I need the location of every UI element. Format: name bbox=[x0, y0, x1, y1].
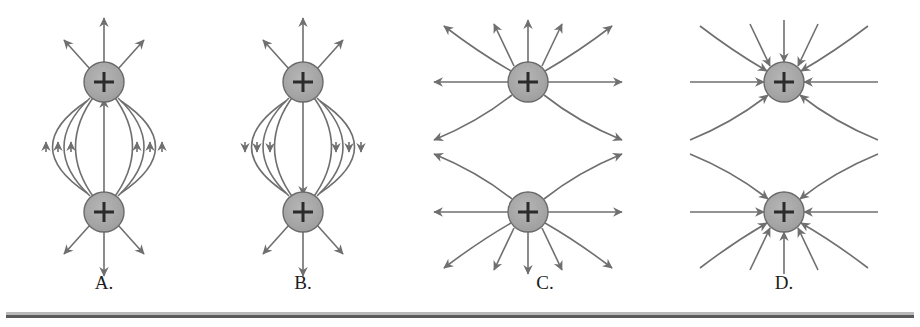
panel-b-lower-charge bbox=[283, 192, 323, 232]
panel-a-lower-charge bbox=[84, 192, 124, 232]
panel-d-field-lines bbox=[690, 20, 878, 274]
panel-label-d: D. bbox=[754, 272, 814, 294]
panel-c-lower-charge bbox=[508, 192, 548, 232]
panel-label-c: C. bbox=[515, 272, 575, 294]
panel-a-field-lines bbox=[46, 18, 162, 276]
horizontal-rule-dark bbox=[6, 315, 914, 318]
panel-b-upper-charge bbox=[283, 62, 323, 102]
panel-b-field-lines bbox=[245, 18, 361, 276]
panel-label-a: A. bbox=[74, 272, 134, 294]
panel-d-upper-charge bbox=[764, 62, 804, 102]
panel-a-upper-charge bbox=[84, 62, 124, 102]
panel-c-field-lines bbox=[434, 20, 622, 274]
panel-label-b: B. bbox=[273, 272, 333, 294]
panel-d-lower-charge bbox=[764, 192, 804, 232]
panel-c-upper-charge bbox=[508, 62, 548, 102]
charge-markers bbox=[84, 62, 804, 232]
